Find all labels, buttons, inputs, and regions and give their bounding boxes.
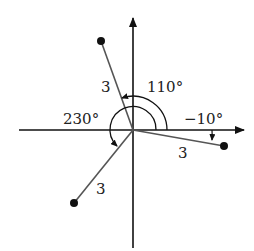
- angle-label-neg10: −10°: [184, 110, 223, 128]
- angle-label-230: 230°: [63, 110, 99, 128]
- angle-arc-110: [122, 96, 167, 130]
- magnitude-label-neg10: 3: [178, 144, 188, 162]
- angle-label-110: 110°: [147, 78, 183, 96]
- polar-diagram: 3 110° 230° −10° 3 3: [0, 0, 254, 251]
- vector-110-point: [97, 37, 105, 45]
- vector-230-point: [70, 199, 78, 207]
- magnitude-label-230: 3: [96, 180, 106, 198]
- vector-neg10-point: [220, 142, 228, 150]
- magnitude-label-110: 3: [101, 78, 111, 96]
